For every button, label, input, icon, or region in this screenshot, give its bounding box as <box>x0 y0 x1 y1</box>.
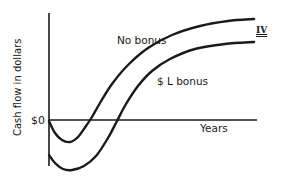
y-axis-label: Cash flow in dollars <box>12 39 23 136</box>
l-bonus-curve <box>49 42 254 170</box>
cash-flow-chart: Cash flow in dollars $0 Years No bonus $… <box>0 0 281 183</box>
series-label-no-bonus: No bonus <box>117 35 167 46</box>
y-tick-zero: $0 <box>31 115 45 126</box>
chart-canvas <box>0 0 281 183</box>
x-axis-label: Years <box>200 123 228 134</box>
series-label-l-bonus: $ L bonus <box>157 76 208 87</box>
figure-label: IV <box>256 25 267 35</box>
